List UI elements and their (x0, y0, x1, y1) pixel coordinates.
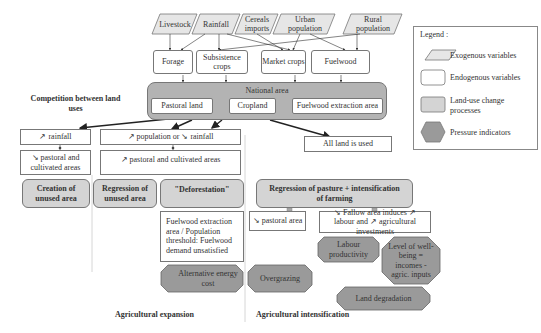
process-creation-unused-area: Creation of unused area (22, 179, 90, 208)
legend-land-use-change: Land-use change processes (450, 96, 530, 115)
national-pastoral-land: Pastoral land (151, 98, 213, 114)
national-area-title: National area (148, 86, 386, 96)
competition-label: Competition between land uses (28, 94, 123, 113)
fuelwood-threshold: Fuelwood extraction area / Population th… (160, 211, 244, 262)
legend-exogenous: Exogenous variables (450, 51, 516, 61)
right-effect-pastoral-area-down: ↘ pastoral area (249, 211, 306, 231)
left-cause-rainfall-up: ↗ rainfall (20, 129, 91, 145)
indicator-labour-productivity: Labour productivity (320, 237, 377, 262)
endo-subsistence-crops: Subsistence crops (196, 50, 248, 74)
exo-rainfall: Rainfall (196, 14, 236, 34)
exo-rural-population: Rural population (350, 14, 396, 34)
national-fuelwood-extraction-area: Fuelwood extraction area (292, 98, 383, 114)
endo-forage: Forage (153, 50, 193, 74)
label-agricultural-intensification: Agricultural intensification (256, 310, 349, 319)
exo-livestock: Livestock (156, 14, 194, 34)
legend-endogenous: Endogenous variables (450, 73, 520, 83)
left-effect-areas-down: ↘ pastoral and cultivated areas (20, 150, 91, 175)
exo-cereals-imports: Cereals imports (241, 14, 273, 34)
process-regression-unused-area: Regression of unused area (93, 179, 157, 208)
process-regression-pasture-intensification: Regression of pasture + intensification … (256, 179, 413, 208)
right-cause-all-land-used: All land is used (304, 136, 392, 152)
indicator-well-being: Level of well-being = incomes - agric. i… (386, 237, 436, 284)
middle-effect-areas-up: ↗ pastoral and cultivated areas (100, 150, 241, 175)
label-agricultural-expansion: Agricultural expansion (115, 310, 194, 319)
middle-cause-population-rainfall: ↗ population or ↘ rainfall (100, 129, 241, 145)
legend-pressure-indicators: Pressure indicators (450, 128, 511, 138)
indicator-alternative-energy-cost: Alternative energy cost (165, 265, 251, 292)
indicator-land-degradation: Land degradation (340, 287, 427, 310)
endo-market-crops: Market crops (261, 50, 306, 74)
right-effect-fallow-area: ↘ Fallow area induces ↗ labour and ↗ agr… (319, 211, 431, 233)
process-deforestation: "Deforestation" (160, 179, 244, 208)
endo-fuelwood: Fuelwood (311, 50, 370, 74)
legend-title: Legend : (420, 30, 448, 40)
exo-urban-population: Urban population (282, 14, 328, 34)
indicator-overgrazing: Overgrazing (250, 265, 310, 292)
national-cropland: Cropland (229, 98, 276, 114)
